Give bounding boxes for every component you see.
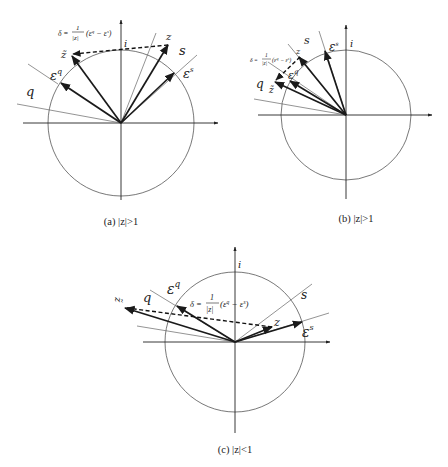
svg-text:|z|: |z| <box>262 60 267 66</box>
eps-s-label: εs <box>302 323 314 340</box>
caption-b: (b) |z|>1 <box>339 213 374 225</box>
delta-vector <box>73 45 168 54</box>
z-label: z <box>273 316 280 329</box>
s-label: s <box>304 34 310 47</box>
svg-text:(εq − εs): (εq − εs) <box>272 56 291 64</box>
q-ray <box>137 326 235 342</box>
eps-s-vector <box>235 322 302 342</box>
eps-q-label: εq <box>50 67 62 83</box>
imag-axis-label: i <box>124 38 127 49</box>
z-tilde-vector <box>125 308 235 342</box>
caption-c: (c) |z|<1 <box>218 444 252 456</box>
s-label: s <box>179 43 186 58</box>
z-label: z <box>295 47 301 56</box>
eps-q-label: εq <box>288 68 299 82</box>
q-label: q <box>143 290 151 305</box>
z-tilde-label: z̃ <box>113 296 124 303</box>
svg-text:δ =: δ = <box>250 57 258 63</box>
z-vector <box>121 45 168 123</box>
z-tilde-vector <box>275 82 346 115</box>
svg-text:|z|: |z| <box>206 305 214 314</box>
z-vector <box>299 57 346 115</box>
eps-s-label: εs <box>183 66 194 81</box>
figure-canvas: i s q εs εq z z̃ δ = 1 |z| (εq − εs) (a)… <box>0 0 448 467</box>
eps-q-label: εq <box>167 279 181 297</box>
delta-formula: δ = 1 |z| (εq − εs) <box>58 24 112 42</box>
svg-text:δ =: δ = <box>58 29 68 38</box>
svg-text:1: 1 <box>210 293 214 302</box>
panel-a: i s q εs εq z z̃ δ = 1 |z| (εq − εs) (a)… <box>17 20 218 228</box>
panel-c: i s q εs εq z z̃ δ = 1 |z| (εq − εs) (c)… <box>113 247 330 456</box>
q-label: q <box>26 84 34 99</box>
panel-b: i s q εs εq z z̃ δ = 1 |z| (εq − εs) (b)… <box>250 25 432 225</box>
q-label: q <box>256 77 264 91</box>
svg-text:1: 1 <box>265 52 268 58</box>
eps-q-vector <box>61 83 121 123</box>
svg-text:(εq − εs): (εq − εs) <box>220 299 249 309</box>
s-label: s <box>301 288 307 302</box>
delta-vector <box>127 308 272 327</box>
eps-s-label: εs <box>329 40 339 54</box>
z-tilde-label: z̃ <box>268 85 274 95</box>
caption-a: (a) |z|>1 <box>104 216 138 228</box>
z-vector <box>235 327 272 342</box>
z-tilde-vector <box>72 56 121 123</box>
svg-text:δ =: δ = <box>190 299 202 309</box>
svg-text:|z|: |z| <box>72 34 79 42</box>
eps-s-vector <box>325 51 346 115</box>
z-label: z <box>165 31 172 42</box>
z-tilde-label: z̃ <box>60 49 67 60</box>
delta-formula: δ = 1 |z| (εq − εs) <box>190 293 249 314</box>
svg-text:1: 1 <box>76 24 80 32</box>
imag-axis-label: i <box>350 38 353 49</box>
imag-axis-label: i <box>238 259 241 270</box>
svg-text:(εq − εs): (εq − εs) <box>86 29 112 38</box>
